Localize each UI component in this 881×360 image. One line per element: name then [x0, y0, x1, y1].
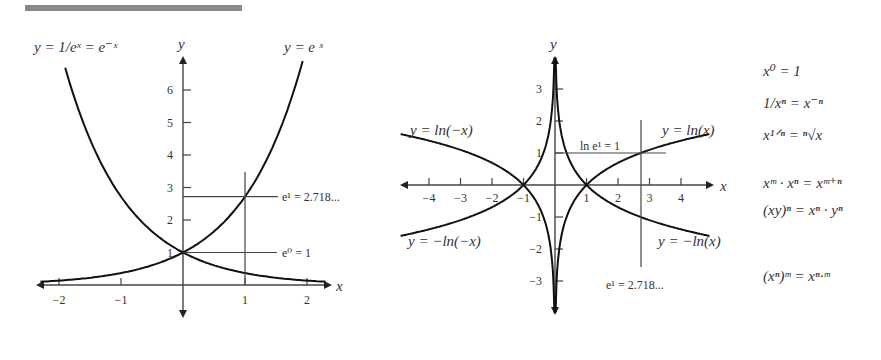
formula-root-exponent: x¹ᐟⁿ = ⁿ√x [763, 126, 822, 144]
svg-text:−1: −1 [517, 191, 530, 205]
label-ln-x: y = ln(x) [660, 122, 715, 139]
exponential-chart: −2−112123456 y = 1/eˣ = e⁻ˣ y = e ˣ y x … [32, 36, 343, 316]
curve-neg-ln-x [556, 58, 710, 236]
svg-text:−1: −1 [115, 293, 128, 307]
svg-text:−4: −4 [423, 191, 436, 205]
x-axis-label: x [335, 278, 343, 294]
formula-power-of-power: (xⁿ)ᵐ = xⁿ·ᵐ [763, 268, 830, 285]
formula-zero-exponent: x⁰ = 1 [763, 62, 801, 80]
svg-text:3: 3 [536, 82, 542, 96]
exponent-rules: x⁰ = 1 1/xⁿ = x⁻ⁿ x¹ᐟⁿ = ⁿ√x xᵐ · xⁿ = x… [763, 0, 881, 360]
label-e-x: y = e ˣ [282, 39, 324, 55]
svg-text:2: 2 [615, 191, 621, 205]
graphs-canvas: −2−112123456 y = 1/eˣ = e⁻ˣ y = e ˣ y x … [0, 0, 881, 360]
annotation-e1: e¹ = 2.718... [606, 278, 664, 292]
svg-text:−3: −3 [454, 191, 467, 205]
svg-text:−3: −3 [529, 274, 542, 288]
label-neg-ln-x: y = −ln(x) [656, 233, 721, 250]
annotation-ln-e1: ln e¹ = 1 [580, 139, 620, 153]
svg-text:−2: −2 [529, 242, 542, 256]
svg-text:2: 2 [536, 114, 542, 128]
axis-ticks: −2−112123456 [53, 83, 310, 307]
logarithm-chart: −4−3−2−11234321−1−2−3 y x y = ln(−x) y =… [401, 36, 727, 313]
svg-text:1: 1 [584, 191, 590, 205]
y-axis-label: y [176, 36, 185, 52]
svg-text:−2: −2 [486, 191, 499, 205]
svg-text:2: 2 [167, 213, 173, 227]
svg-text:6: 6 [167, 83, 173, 97]
svg-text:2: 2 [304, 293, 310, 307]
annotation-e1: e¹ = 2.718... [282, 190, 340, 204]
formula-product-rule: xᵐ · xⁿ = xᵐ⁺ⁿ [763, 174, 842, 192]
formula-negative-exponent: 1/xⁿ = x⁻ⁿ [763, 94, 823, 112]
label-ln-neg-x: y = ln(−x) [408, 122, 473, 139]
annotation-e0: e⁰ = 1 [282, 246, 311, 260]
svg-text:−2: −2 [53, 293, 66, 307]
svg-text:4: 4 [167, 148, 173, 162]
label-neg-ln-neg-x: y = −ln(−x) [406, 233, 481, 250]
label-e-neg-x: y = 1/eˣ = e⁻ˣ [32, 39, 118, 55]
svg-text:5: 5 [167, 116, 173, 130]
svg-text:1: 1 [242, 293, 248, 307]
y-axis-label: y [548, 36, 557, 52]
x-axis-label: x [719, 178, 727, 194]
svg-text:4: 4 [678, 191, 684, 205]
svg-text:3: 3 [167, 181, 173, 195]
svg-text:3: 3 [647, 191, 653, 205]
formula-power-of-product: (xy)ⁿ = xⁿ · yⁿ [763, 202, 843, 219]
svg-text:−1: −1 [529, 210, 542, 224]
